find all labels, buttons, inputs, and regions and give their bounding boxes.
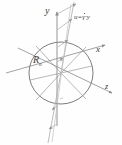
velocity-profile-line-inner — [52, 4, 71, 142]
tick-mark — [60, 98, 63, 99]
gamma-dot-symbol: γ — [82, 14, 85, 21]
velocity-arrow — [49, 124, 57, 129]
radius-label: R0 — [33, 55, 42, 67]
y-axis-label: y — [45, 6, 49, 16]
x-axis-label: x — [96, 45, 100, 54]
radial-line — [61, 73, 86, 99]
radius-subscript: 0 — [39, 62, 42, 67]
y-variable: y — [87, 13, 90, 21]
radial-line — [61, 66, 92, 73]
z-axis-label: z — [105, 83, 108, 91]
diagram-svg — [0, 0, 122, 145]
velocity-profile-label: u=γ·y — [74, 14, 90, 21]
figure-canvas: y x z R0 u=γ·y — [0, 0, 122, 145]
radial-line — [30, 73, 61, 80]
